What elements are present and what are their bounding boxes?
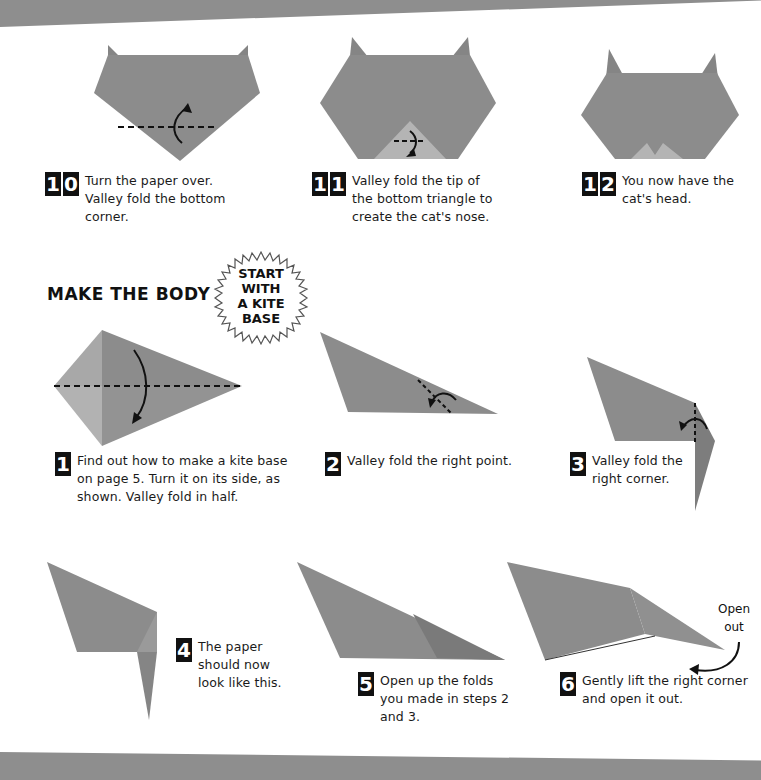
step-number-badge: 4 (176, 638, 192, 662)
body-step-2-text: Valley fold the right point. (347, 452, 537, 470)
body-step-5-caption: 5 Open up the folds you made in steps 2 … (358, 672, 528, 726)
step-number-badge: 12 (582, 172, 616, 196)
starburst-text: START WITH A KITE BASE (213, 266, 309, 326)
step-10-caption: 10 Turn the paper over. Valley fold the … (45, 172, 275, 226)
top-page-band (0, 0, 761, 30)
step-number-badge: 2 (325, 452, 341, 476)
step-11-text: Valley fold the tip of the bottom triang… (352, 172, 502, 226)
diagram-body-step-3 (585, 355, 725, 515)
diagram-step-11 (318, 35, 498, 165)
step-number-badge: 1 (55, 452, 71, 476)
step-12-caption: 12 You now have the cat's head. (582, 172, 757, 208)
step-number-badge: 10 (45, 172, 79, 196)
step-number-badge: 11 (312, 172, 346, 196)
diagram-body-step-5 (295, 560, 515, 665)
body-step-3-text: Valley fold the right corner. (592, 452, 687, 488)
body-step-1-caption: 1 Find out how to make a kite base on pa… (55, 452, 315, 506)
body-step-6-text: Gently lift the right corner and open it… (582, 672, 757, 708)
diagram-body-step-4 (45, 560, 175, 730)
body-step-4-caption: 4 The paper should now look like this. (176, 638, 296, 692)
body-step-2-caption: 2 Valley fold the right point. (325, 452, 545, 476)
diagram-step-10 (88, 35, 268, 165)
step-12-text: You now have the cat's head. (622, 172, 737, 208)
body-step-3-caption: 3 Valley fold the right corner. (570, 452, 710, 488)
open-out-label: Open out (712, 600, 756, 636)
diagram-body-step-2 (318, 330, 508, 420)
diagram-body-step-1 (52, 328, 252, 450)
body-step-1-text: Find out how to make a kite base on page… (77, 452, 302, 506)
body-step-5-text: Open up the folds you made in steps 2 an… (380, 672, 520, 726)
step-number-badge: 5 (358, 672, 374, 696)
body-step-4-text: The paper should now look like this. (198, 638, 286, 692)
step-11-caption: 11 Valley fold the tip of the bottom tri… (312, 172, 532, 226)
body-step-6-caption: 6 Gently lift the right corner and open … (560, 672, 760, 708)
step-10-text: Turn the paper over. Valley fold the bot… (85, 172, 235, 226)
section-title: MAKE THE BODY (47, 284, 210, 304)
step-number-badge: 3 (570, 452, 586, 476)
step-number-badge: 6 (560, 672, 576, 696)
bottom-page-band (0, 752, 761, 780)
diagram-step-12 (575, 45, 745, 165)
